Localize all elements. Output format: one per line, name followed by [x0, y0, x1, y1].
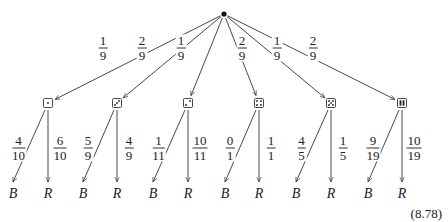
leaf-probability-R-5: 15	[338, 135, 349, 162]
denominator: 5	[340, 150, 347, 162]
leaf-R: R	[44, 186, 53, 202]
leaf-R: R	[398, 186, 407, 202]
leaf-probability-B-3: 111	[151, 135, 166, 162]
denominator: 10	[12, 150, 25, 162]
denominator: 9	[126, 150, 133, 162]
numerator: 1	[273, 35, 282, 47]
numerator: 6	[56, 135, 65, 147]
die-face-6-icon	[398, 99, 407, 108]
branch-probability-2: 29	[137, 35, 148, 62]
edge-root-to-die-3	[191, 18, 223, 96]
denominator: 9	[85, 150, 92, 162]
leaf-B: B	[364, 186, 373, 202]
denominator: 5	[298, 150, 305, 162]
leaf-B: B	[9, 186, 18, 202]
denominator: 9	[100, 50, 107, 62]
numerator: 0	[226, 135, 235, 147]
die-face-3-icon	[113, 99, 122, 108]
branch-probability-3: 19	[176, 35, 187, 62]
numerator: 5	[84, 135, 93, 147]
numerator: 2	[238, 35, 247, 47]
denominator: 1	[268, 150, 275, 162]
numerator: 1	[177, 35, 186, 47]
denominator: 9	[139, 50, 146, 62]
numerator: 1	[339, 135, 348, 147]
numerator: 1	[154, 135, 163, 147]
equation-number: (8.78)	[411, 206, 442, 222]
leaf-R: R	[184, 186, 193, 202]
leaf-probability-B-1: 410	[11, 135, 26, 162]
die-face-1-icon	[44, 99, 53, 108]
die-face-5-icon	[327, 99, 336, 108]
denominator: 9	[310, 50, 317, 62]
leaf-probability-R-6: 1019	[406, 135, 423, 162]
numerator: 10	[193, 135, 208, 147]
leaf-R: R	[113, 186, 122, 202]
numerator: 10	[407, 135, 422, 147]
leaf-probability-R-4: 11	[266, 135, 277, 162]
numerator: 4	[297, 135, 306, 147]
leaf-probability-B-2: 59	[83, 135, 94, 162]
denominator: 1	[227, 150, 234, 162]
numerator: 1	[267, 135, 276, 147]
denominator: 10	[54, 150, 67, 162]
branch-probability-5: 19	[272, 35, 283, 62]
numerator: 4	[125, 135, 134, 147]
denominator: 19	[408, 150, 421, 162]
numerator: 2	[309, 35, 318, 47]
leaf-probability-B-5: 45	[296, 135, 307, 162]
numerator: 4	[14, 135, 23, 147]
leaf-probability-R-1: 610	[53, 135, 68, 162]
denominator: 11	[152, 150, 165, 162]
leaf-probability-B-4: 01	[225, 135, 236, 162]
denominator: 11	[194, 150, 207, 162]
leaf-R: R	[327, 186, 336, 202]
denominator: 9	[274, 50, 281, 62]
leaf-probability-R-2: 49	[124, 135, 135, 162]
root-node	[221, 11, 226, 16]
leaf-B: B	[149, 186, 158, 202]
leaf-B: B	[221, 186, 230, 202]
numerator: 2	[138, 35, 147, 47]
die-face-4-icon	[255, 99, 264, 108]
denominator: 9	[239, 50, 246, 62]
branch-probability-6: 29	[308, 35, 319, 62]
branch-probability-1: 19	[98, 35, 109, 62]
leaf-B: B	[292, 186, 301, 202]
denominator: 9	[178, 50, 185, 62]
branch-probability-4: 29	[237, 35, 248, 62]
leaf-R: R	[255, 186, 264, 202]
numerator: 9	[369, 135, 378, 147]
die-face-2-icon	[184, 99, 193, 108]
leaf-probability-R-3: 1011	[192, 135, 209, 162]
leaf-B: B	[79, 186, 88, 202]
numerator: 1	[99, 35, 108, 47]
leaf-probability-B-6: 919	[366, 135, 381, 162]
denominator: 19	[367, 150, 380, 162]
